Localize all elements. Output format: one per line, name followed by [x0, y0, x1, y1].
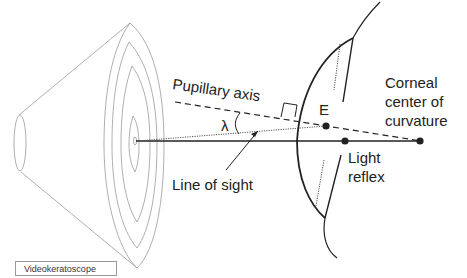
videokeratoscope-cone [14, 23, 164, 268]
lambda-label: λ [221, 117, 229, 134]
line-of-sight-label: Line of sight [172, 176, 254, 193]
cornea-back-surface-top [343, 38, 353, 102]
placido-ring-3 [121, 66, 150, 222]
eye-cornea [297, 2, 380, 258]
point-e-label: E [319, 101, 329, 118]
cone-top-edge [19, 23, 130, 115]
light-reflex-label-1: Light [348, 149, 381, 166]
light-reflex-dot [341, 137, 348, 144]
videokeratoscope-label: Videokeratoscope [15, 261, 117, 276]
corneal-center-label-2: center of [385, 93, 444, 110]
corneal-center-dot [416, 137, 423, 144]
corneal-center-label-3: curvature [385, 112, 448, 129]
sclera-top [353, 2, 380, 38]
line-of-sight-pointer [226, 131, 258, 170]
diagram-canvas: Pupillary axis λ Line of sight E Corneal… [0, 0, 467, 278]
point-e-dot [322, 122, 329, 129]
cone-small-end-ellipse [14, 115, 26, 171]
lambda-angle-arc [235, 113, 240, 134]
sclera-bottom [324, 218, 337, 258]
cornea-back-surface-bottom [325, 155, 341, 218]
right-angle-marker [281, 103, 297, 117]
placido-ring-outer [104, 23, 164, 268]
pupillary-axis-label: Pupillary axis [172, 75, 262, 104]
light-reflex-label-2: reflex [348, 168, 385, 185]
cone-bottom-edge [21, 172, 137, 268]
limbus-dotted-bottom [316, 160, 324, 206]
corneal-center-label-1: Corneal [385, 74, 438, 91]
